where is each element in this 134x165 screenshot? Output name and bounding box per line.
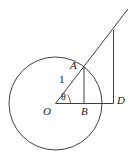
geometry-figure: A 1 θ O B D <box>0 0 134 165</box>
label-point-D: D <box>117 95 125 106</box>
ray-OA-extended <box>56 9 129 104</box>
geometry-canvas <box>0 0 134 165</box>
label-radius-length: 1 <box>59 74 65 85</box>
label-point-A: A <box>70 60 77 71</box>
label-point-B: B <box>81 106 88 117</box>
angle-arc-theta <box>68 95 71 104</box>
label-angle-theta: θ <box>61 92 66 102</box>
label-point-O: O <box>43 106 51 117</box>
